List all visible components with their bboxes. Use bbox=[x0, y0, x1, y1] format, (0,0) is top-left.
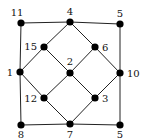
edge-8-7 bbox=[21, 124, 70, 125]
nodes-layer bbox=[16, 18, 123, 128]
node-n7 bbox=[66, 120, 73, 127]
edge-11-1 bbox=[20, 23, 21, 72]
node-n3 bbox=[91, 94, 98, 101]
node-label-n12: 12 bbox=[24, 93, 37, 104]
node-n5t bbox=[116, 20, 123, 27]
edge-1-8 bbox=[20, 72, 21, 125]
node-label-n11: 11 bbox=[11, 7, 24, 18]
node-label-n7: 7 bbox=[67, 129, 73, 140]
edge-3-7 bbox=[70, 98, 95, 124]
edge-7-5 bbox=[70, 124, 120, 125]
node-label-n1: 1 bbox=[7, 67, 13, 78]
node-n1 bbox=[16, 68, 23, 75]
node-n15 bbox=[40, 43, 47, 50]
node-label-n3: 3 bbox=[102, 93, 108, 104]
edge-4-6 bbox=[70, 22, 95, 47]
node-n6 bbox=[91, 43, 98, 50]
edge-4-5 bbox=[70, 22, 120, 24]
node-n8 bbox=[17, 121, 24, 128]
node-label-n5t: 5 bbox=[117, 8, 123, 19]
node-label-n4: 4 bbox=[67, 6, 73, 17]
node-label-n6: 6 bbox=[102, 42, 108, 53]
node-label-n8: 8 bbox=[18, 129, 24, 140]
node-label-n15: 15 bbox=[24, 41, 37, 52]
node-n2 bbox=[66, 69, 73, 76]
node-n12 bbox=[40, 94, 47, 101]
node-label-n2: 2 bbox=[67, 56, 73, 67]
node-n10 bbox=[116, 69, 123, 76]
node-label-n10: 10 bbox=[127, 68, 140, 79]
edge-2-3 bbox=[70, 73, 95, 98]
edge-2-12 bbox=[44, 73, 70, 98]
edge-4-15 bbox=[44, 22, 70, 47]
edge-11-4 bbox=[21, 22, 70, 23]
edge-12-7 bbox=[44, 98, 70, 124]
node-label-n5b: 5 bbox=[117, 129, 123, 140]
edge-2-6 bbox=[70, 47, 95, 73]
node-n11 bbox=[17, 19, 24, 26]
graph-diagram: 11451561210123875 bbox=[0, 0, 142, 140]
node-n4 bbox=[66, 18, 73, 25]
node-n5b bbox=[116, 121, 123, 128]
